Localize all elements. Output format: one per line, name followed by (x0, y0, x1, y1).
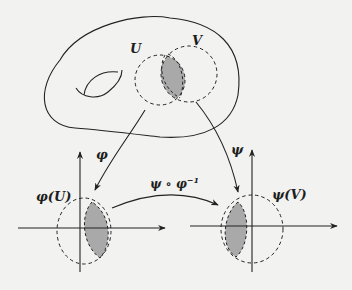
diagram-canvas: U V φ ψ ψ ∘ φ−1 φ(U) ψ(V) (0, 0, 352, 290)
label-v: V (192, 34, 202, 47)
transition-map-exponent: −1 (187, 175, 199, 185)
manifold-handle-upper (84, 72, 118, 95)
label-phi-u: φ(U) (36, 190, 71, 203)
transition-map-text: ψ ∘ φ (150, 177, 187, 191)
transition-map-arrow (112, 195, 218, 208)
label-psi-v: ψ(V) (272, 188, 307, 201)
chart-psi-v (190, 150, 337, 272)
label-u: U (130, 42, 141, 55)
label-psi: ψ (231, 143, 243, 156)
manifold-handle (76, 70, 122, 97)
manifold-outline (44, 17, 239, 138)
chart-phi-u (18, 152, 165, 272)
label-transition-map: ψ ∘ φ−1 (150, 176, 199, 190)
diagram-svg (0, 0, 352, 290)
label-phi: φ (96, 148, 108, 161)
